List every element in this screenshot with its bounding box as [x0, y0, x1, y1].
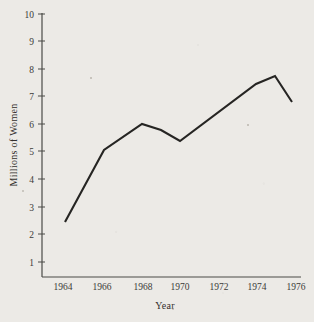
y-tick-label-10: 10 — [25, 10, 35, 20]
x-tick-label-1966: 1966 — [93, 282, 112, 292]
x-tick-label-1970: 1970 — [171, 282, 190, 292]
x-tick-label-1972: 1972 — [210, 282, 229, 292]
chart-container: 10 9 8 7 6 5 4 3 2 1 1964 1966 1968 1970… — [0, 0, 314, 322]
y-tick-label-7: 7 — [29, 92, 34, 102]
y-tick-label-9: 9 — [29, 37, 34, 47]
y-tick-label-5: 5 — [29, 147, 34, 157]
y-tick-label-1: 1 — [29, 258, 34, 268]
y-tick-label-2: 2 — [29, 230, 34, 240]
x-axis-tick-labels: 1964 1966 1968 1970 1972 1974 1976 — [54, 282, 306, 292]
y-tick-label-8: 8 — [29, 65, 34, 75]
data-series-line — [65, 76, 292, 222]
x-tick-label-1964: 1964 — [54, 282, 73, 292]
y-axis-tick-labels: 10 9 8 7 6 5 4 3 2 1 — [25, 10, 35, 268]
y-tick-label-3: 3 — [29, 203, 34, 213]
x-axis-title: Year — [155, 300, 175, 311]
y-axis-title: Millions of Women — [8, 103, 19, 186]
x-tick-label-1974: 1974 — [248, 282, 267, 292]
line-chart-plot: 10 9 8 7 6 5 4 3 2 1 1964 1966 1968 1970… — [0, 0, 314, 322]
y-tick-label-4: 4 — [29, 175, 34, 185]
x-tick-label-1976: 1976 — [287, 282, 306, 292]
y-tick-label-6: 6 — [29, 120, 34, 130]
x-tick-label-1968: 1968 — [134, 282, 153, 292]
